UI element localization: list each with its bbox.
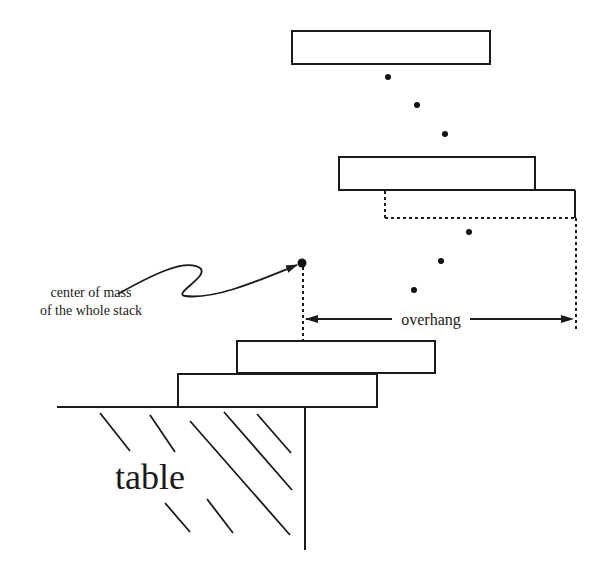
top-block <box>292 31 490 64</box>
center-of-mass-label-line1: center of mass <box>51 285 132 300</box>
table-label: table <box>115 457 185 497</box>
lower-block-1 <box>178 374 377 407</box>
center-of-mass-label-line2: of the whole stack <box>40 303 142 318</box>
ghost-block <box>385 190 575 218</box>
center-of-mass-dot <box>298 259 307 268</box>
upper-block <box>339 157 535 190</box>
arrowhead-right-icon <box>561 315 574 323</box>
arrowhead-left-icon <box>305 315 318 323</box>
ellipsis-dots-upper <box>385 74 448 137</box>
stacking-diagram: overhang center of mass of the whole sta… <box>0 0 608 573</box>
center-of-mass-arrow <box>118 265 297 297</box>
ellipsis-dots-lower <box>411 229 472 293</box>
overhang-label: overhang <box>401 311 461 329</box>
lower-block-2 <box>237 341 435 373</box>
